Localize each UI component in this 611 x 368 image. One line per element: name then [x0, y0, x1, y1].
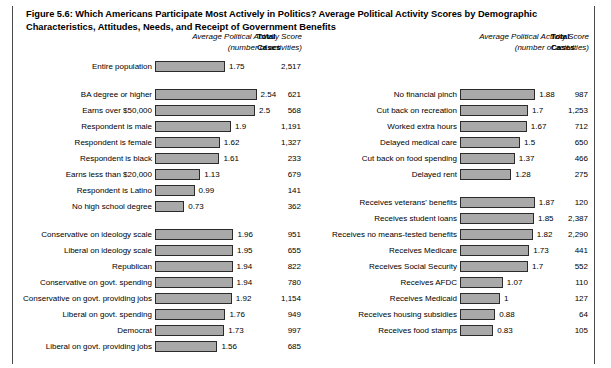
chart-row: Receives AFDC1.07110 — [0, 277, 611, 289]
row-total-cases: 685 — [261, 342, 301, 352]
chart-row: Receives food stamps0.83105 — [0, 325, 611, 337]
row-total-cases: 127 — [548, 294, 588, 304]
row-category-label: Receives Medicare — [297, 246, 457, 256]
row-category-label: Worked extra hours — [297, 122, 457, 132]
chart-row: Receives Social Security1.7552 — [0, 261, 611, 273]
row-bar — [460, 293, 500, 304]
row-value-label: 1.5 — [524, 138, 535, 148]
row-total-cases: 650 — [548, 138, 588, 148]
row-bar — [460, 89, 535, 100]
row-total-cases: 120 — [548, 198, 588, 208]
row-value-label: 1 — [504, 294, 508, 304]
row-value-label: 0.99 — [199, 186, 215, 196]
row-bar — [460, 137, 520, 148]
chart-row: Cut back on recreation1.71,253 — [0, 105, 611, 117]
row-category-label: Delayed medical care — [297, 138, 457, 148]
header-total-line1-left: Total — [257, 32, 281, 43]
row-bar — [155, 185, 195, 196]
figure-number: Figure 5.6 — [26, 9, 70, 19]
header-total-cases-right: TotalCases — [551, 32, 575, 53]
row-total-cases: 2,517 — [261, 62, 301, 72]
row-value-label: 0.88 — [499, 310, 515, 320]
row-category-label: Liberal on govt. providing jobs — [2, 342, 152, 352]
row-total-cases: 110 — [548, 278, 588, 288]
row-value-label: 1.7 — [532, 106, 543, 116]
row-total-cases: 987 — [548, 90, 588, 100]
row-bar — [460, 105, 528, 116]
row-value-label: 1.07 — [507, 278, 523, 288]
row-bar — [155, 341, 217, 352]
header-total-line2-right: Cases — [551, 43, 575, 54]
row-value-label: 1.75 — [229, 62, 245, 72]
row-bar — [460, 261, 528, 272]
row-category-label: No financial pinch — [297, 90, 457, 100]
chart-row: Receives no means-tested benefits1.822,2… — [0, 229, 611, 241]
row-category-label: Cut back on food spending — [297, 154, 457, 164]
header-total-cases-left: TotalCases — [257, 32, 281, 53]
row-bar — [460, 277, 503, 288]
row-category-label: Receives housing subsidies — [297, 310, 457, 320]
row-bar — [155, 61, 225, 72]
row-total-cases: 712 — [548, 122, 588, 132]
row-category-label: Receives food stamps — [297, 326, 457, 336]
row-bar — [460, 169, 511, 180]
row-total-cases: 275 — [548, 170, 588, 180]
row-bar — [460, 229, 533, 240]
chart-row: Receives housing subsidies0.8864 — [0, 309, 611, 321]
row-value-label: 1.7 — [532, 262, 543, 272]
row-value-label: 1.73 — [533, 246, 549, 256]
row-category-label: Respondent is Latino — [2, 186, 152, 196]
row-value-label: 1.37 — [519, 154, 535, 164]
row-bar — [460, 197, 535, 208]
row-total-cases: 141 — [261, 186, 301, 196]
row-total-cases: 2,290 — [548, 230, 588, 240]
row-total-cases: 2,387 — [548, 214, 588, 224]
chart-row: Receives veterans' benefits1.87120 — [0, 197, 611, 209]
row-category-label: Delayed rent — [297, 170, 457, 180]
row-value-label: 1.67 — [531, 122, 547, 132]
row-total-cases: 64 — [548, 310, 588, 320]
row-category-label: Receives veterans' benefits — [297, 198, 457, 208]
row-bar — [460, 325, 493, 336]
chart-row: Liberal on govt. providing jobs1.56685 — [0, 341, 611, 353]
chart-row: Receives Medicaid1127 — [0, 293, 611, 305]
chart-row: Worked extra hours1.67712 — [0, 121, 611, 133]
chart-row: Cut back on food spending1.37466 — [0, 153, 611, 165]
row-bar — [460, 309, 495, 320]
chart-row: No financial pinch1.88987 — [0, 89, 611, 101]
figure-container: Figure 5.6: Which Americans Participate … — [0, 0, 611, 368]
row-category-label: Receives Social Security — [297, 262, 457, 272]
row-category-label: Receives no means-tested benefits — [297, 230, 457, 240]
row-value-label: 1.28 — [515, 170, 531, 180]
header-total-line1-right: Total — [551, 32, 575, 43]
figure-title: Figure 5.6: Which Americans Participate … — [26, 8, 588, 33]
chart-row: Receives Medicare1.73441 — [0, 245, 611, 257]
row-category-label: Receives AFDC — [297, 278, 457, 288]
row-bar — [460, 121, 527, 132]
row-bar — [460, 213, 534, 224]
chart-row: Delayed medical care1.5650 — [0, 137, 611, 149]
row-category-label: Receives student loans — [297, 214, 457, 224]
row-total-cases: 552 — [548, 262, 588, 272]
row-total-cases: 1,253 — [548, 106, 588, 116]
row-value-label: 0.83 — [497, 326, 513, 336]
chart-row: Delayed rent1.28275 — [0, 169, 611, 181]
row-bar — [460, 245, 529, 256]
chart-row: Respondent is Latino0.99141 — [0, 185, 611, 197]
row-category-label: Entire population — [2, 62, 152, 72]
row-total-cases: 441 — [548, 246, 588, 256]
row-category-label: Receives Medicaid — [297, 294, 457, 304]
row-total-cases: 105 — [548, 326, 588, 336]
chart-row: Entire population1.752,517 — [0, 61, 611, 73]
row-value-label: 1.56 — [221, 342, 237, 352]
row-category-label: Cut back on recreation — [297, 106, 457, 116]
row-bar — [460, 153, 515, 164]
figure-title-text: : Which Americans Participate Most Activ… — [26, 9, 537, 32]
header-total-line2-left: Cases — [257, 43, 281, 54]
chart-row: Receives student loans1.852,387 — [0, 213, 611, 225]
row-total-cases: 466 — [548, 154, 588, 164]
